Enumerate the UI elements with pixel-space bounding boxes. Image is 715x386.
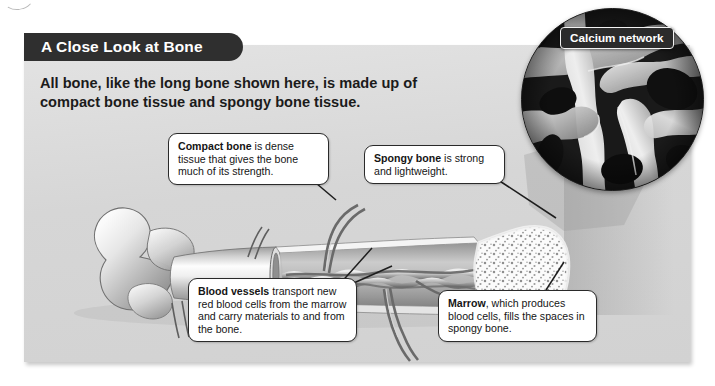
- callout-blood-vessels-term: Blood vessels: [198, 285, 269, 297]
- callout-spongy-bone: Spongy bone is strong and lightweight.: [364, 145, 505, 184]
- page-title: A Close Look at Bone: [41, 38, 203, 56]
- callout-compact-bone-term: Compact bone: [178, 140, 252, 152]
- calcium-network-label: Calcium network: [560, 27, 674, 49]
- figure-intro-text: All bone, like the long bone shown here,…: [40, 74, 480, 112]
- callout-compact-bone: Compact bone is dense tissue that gives …: [168, 133, 329, 185]
- callout-marrow-term: Marrow: [448, 297, 486, 309]
- figure-title-bar: A Close Look at Bone: [24, 33, 243, 61]
- page-corner-artifact: [0, 0, 35, 12]
- callout-blood-vessels: Blood vessels transport new red blood ce…: [188, 278, 357, 342]
- callout-marrow: Marrow, which produces blood cells, fill…: [438, 290, 597, 342]
- callout-spongy-bone-term: Spongy bone: [374, 152, 441, 164]
